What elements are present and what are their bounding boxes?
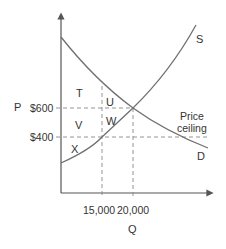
x-axis-label: Q xyxy=(128,223,137,235)
price-ceiling-label-2: ceiling xyxy=(177,122,207,134)
price-ceiling-label-1: Price xyxy=(180,110,204,122)
tick-600: $600 xyxy=(30,102,54,114)
region-v-label: V xyxy=(75,119,83,131)
region-w-label: W xyxy=(106,115,117,127)
demand-label: D xyxy=(197,150,205,162)
region-u-label: U xyxy=(106,96,114,108)
tick-20000: 20,000 xyxy=(117,204,149,216)
tick-400: $400 xyxy=(30,131,54,143)
supply-demand-chart: P Q $600 $400 15,000 20,000 S D Price ce… xyxy=(0,0,226,249)
region-x-label: X xyxy=(71,143,79,155)
y-axis-label: P xyxy=(14,101,21,113)
tick-15000: 15,000 xyxy=(83,204,115,216)
region-t-label: T xyxy=(76,87,83,99)
supply-label: S xyxy=(196,33,203,45)
